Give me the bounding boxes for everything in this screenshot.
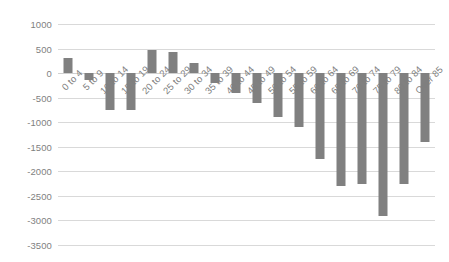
bar-slot (205, 24, 226, 245)
bar-chart: 10005000-500-1000-1500-2000-2500-3000-35… (0, 0, 449, 262)
y-axis: 10005000-500-1000-1500-2000-2500-3000-35… (0, 24, 52, 245)
bar-slot (79, 24, 100, 245)
bar[interactable] (420, 73, 429, 142)
bar[interactable] (378, 73, 387, 215)
bar[interactable] (232, 73, 241, 93)
bar-slot (247, 24, 268, 245)
bar-slot (414, 24, 435, 245)
y-tick-label: -2000 (27, 166, 52, 177)
bar[interactable] (273, 73, 282, 117)
bar[interactable] (315, 73, 324, 159)
bar-slot (267, 24, 288, 245)
bar-slot (121, 24, 142, 245)
bar[interactable] (148, 50, 157, 73)
bar-slot (226, 24, 247, 245)
bar[interactable] (211, 73, 220, 83)
bar-slot (100, 24, 121, 245)
bar[interactable] (252, 73, 261, 102)
y-tick-label: -3500 (27, 240, 52, 251)
bar-slot (142, 24, 163, 245)
y-tick-label: -2500 (27, 190, 52, 201)
bar-slot (309, 24, 330, 245)
bar-slot (351, 24, 372, 245)
bar[interactable] (399, 73, 408, 184)
bar[interactable] (85, 73, 94, 80)
bar[interactable] (336, 73, 345, 186)
bar[interactable] (190, 63, 199, 73)
bar[interactable] (64, 58, 73, 73)
gridline (58, 245, 435, 246)
bar-slot (184, 24, 205, 245)
bar-slot (393, 24, 414, 245)
bar[interactable] (106, 73, 115, 110)
plot-area (58, 24, 435, 245)
bar-slot (163, 24, 184, 245)
y-tick-label: 500 (36, 43, 52, 54)
y-tick-label: 1000 (30, 19, 52, 30)
y-tick-label: -500 (33, 92, 52, 103)
bar[interactable] (127, 73, 136, 110)
y-tick-label: -1500 (27, 141, 52, 152)
y-tick-label: 0 (47, 68, 52, 79)
bar-slot (372, 24, 393, 245)
y-tick-label: -1000 (27, 117, 52, 128)
bar-slot (58, 24, 79, 245)
bar-slot (288, 24, 309, 245)
bar[interactable] (294, 73, 303, 127)
bar-slot (330, 24, 351, 245)
bar[interactable] (357, 73, 366, 184)
bar[interactable] (169, 52, 178, 73)
y-tick-label: -3000 (27, 215, 52, 226)
